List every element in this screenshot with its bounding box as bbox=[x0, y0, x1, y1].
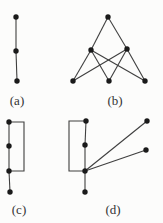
graph-d-node-3 bbox=[82, 189, 87, 194]
graph-b-node-5 bbox=[142, 78, 147, 83]
graph-c-node-0 bbox=[6, 119, 11, 124]
graph-c-node-1 bbox=[6, 143, 11, 148]
graph-b-edge-0-2 bbox=[108, 17, 127, 49]
graph-a-node-1 bbox=[13, 48, 18, 53]
figure-svg: (a)(b)(c)(d) bbox=[0, 0, 163, 223]
graph-theory-figure: (a)(b)(c)(d) bbox=[0, 0, 163, 223]
graph-c-node-2 bbox=[6, 168, 11, 173]
graph-d-edge-0-1 bbox=[85, 121, 86, 145]
graph-d-node-4 bbox=[144, 118, 149, 123]
graph-b-edge-1-3 bbox=[73, 50, 91, 81]
graph-a-node-2 bbox=[14, 78, 19, 83]
graph-b-node-4 bbox=[106, 78, 111, 83]
graph-a-label: (a) bbox=[10, 93, 24, 108]
graph-a-edge-1-2 bbox=[16, 51, 17, 81]
graph-d-node-1 bbox=[82, 142, 87, 147]
graph-d-node-5 bbox=[143, 147, 148, 152]
graph-c-node-3 bbox=[7, 189, 12, 194]
graph-b-edge-2-3 bbox=[73, 49, 127, 81]
graph-b: (b) bbox=[70, 14, 147, 108]
graph-b-label: (b) bbox=[107, 93, 122, 108]
graph-d-edge-2-5 bbox=[85, 150, 146, 171]
graph-b-node-1 bbox=[88, 47, 93, 52]
graph-d-edge-2-4 bbox=[85, 121, 147, 171]
graph-c-edge-2-3 bbox=[9, 171, 10, 192]
graph-c-label: (c) bbox=[12, 202, 26, 217]
graph-d-node-2 bbox=[82, 168, 87, 173]
graph-a: (a) bbox=[10, 14, 24, 108]
graph-b-edge-0-1 bbox=[91, 17, 108, 50]
graph-b-node-0 bbox=[105, 14, 110, 19]
graph-b-node-3 bbox=[70, 78, 75, 83]
graph-d: (d) bbox=[69, 118, 150, 217]
graph-a-node-0 bbox=[13, 14, 18, 19]
graph-d-node-0 bbox=[83, 118, 88, 123]
graph-c: (c) bbox=[6, 119, 26, 217]
graph-b-node-2 bbox=[124, 46, 129, 51]
graph-d-label: (d) bbox=[105, 202, 120, 217]
